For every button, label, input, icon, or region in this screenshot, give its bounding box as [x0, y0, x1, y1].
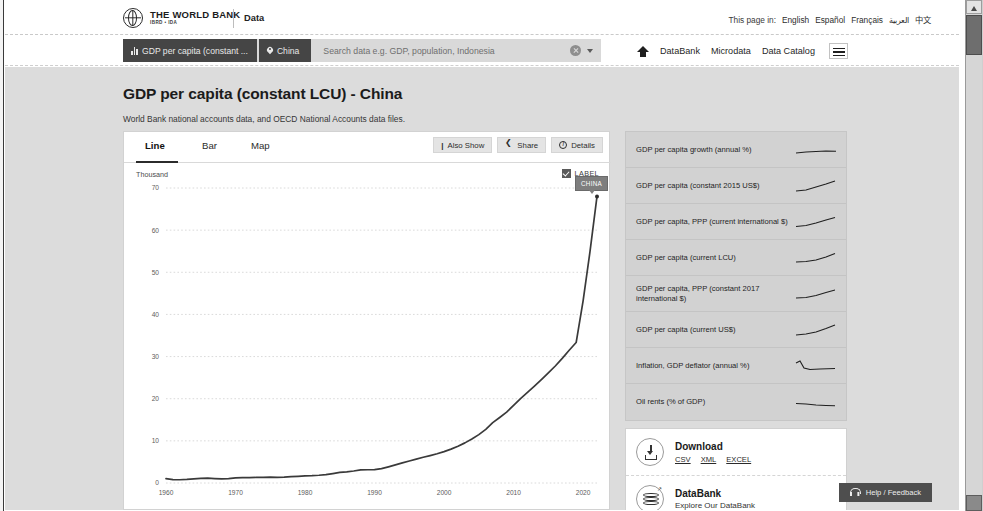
indicator-sparkline	[794, 286, 838, 302]
tab-bar[interactable]: Bar	[202, 140, 217, 151]
brand-name: THE WORLD BANK	[150, 10, 240, 20]
hamburger-menu-icon[interactable]	[829, 43, 848, 59]
language-link-chinese[interactable]: 中文	[915, 15, 931, 25]
share-button[interactable]: Share	[497, 137, 546, 153]
info-icon	[559, 141, 567, 149]
indicator-label: GDP per capita growth (annual %)	[636, 145, 794, 155]
search-input[interactable]: Search data e.g. GDP, population, Indone…	[311, 46, 570, 56]
indicator-label: Oil rents (% of GDP)	[636, 397, 794, 407]
indicator-list-item[interactable]: GDP per capita, PPP (constant 2017 inter…	[626, 276, 846, 312]
series-tooltip: CHINA	[575, 176, 608, 191]
svg-text:50: 50	[152, 269, 160, 276]
download-title: Download	[675, 441, 751, 452]
svg-text:10: 10	[152, 437, 160, 444]
tab-map[interactable]: Map	[251, 140, 270, 151]
search-bar-row: GDP per capita (constant ... China Searc…	[5, 36, 959, 66]
search-chip-indicator[interactable]: GDP per capita (constant ...	[123, 39, 257, 62]
page-content: GDP per capita (constant LCU) - China Wo…	[5, 67, 959, 510]
home-icon[interactable]	[637, 46, 649, 57]
also-show-label: Also Show	[448, 141, 485, 150]
download-link-excel[interactable]: EXCEL	[726, 455, 751, 464]
help-feedback-label: Help / Feedback	[866, 488, 921, 497]
line-chart[interactable]: 010203040506070 196019701980199020002010…	[132, 180, 603, 505]
browser-viewport: THE WORLD BANK IBRD • IDA Data This page…	[0, 0, 983, 511]
indicator-list-item[interactable]: GDP per capita (constant 2015 US$)	[626, 168, 846, 204]
svg-text:2020: 2020	[576, 489, 591, 496]
scrollbar-up-arrow[interactable]	[966, 0, 982, 14]
indicator-sparkline	[794, 250, 838, 266]
language-link-english[interactable]: English	[782, 15, 809, 25]
also-show-icon: |	[441, 141, 443, 150]
indicator-sparkline	[794, 214, 838, 230]
databank-subtitle: Explore Our DataBank	[675, 501, 755, 510]
indicator-list-item[interactable]: GDP per capita growth (annual %)	[626, 132, 846, 168]
share-icon	[505, 141, 513, 149]
indicator-label: GDP per capita (constant 2015 US$)	[636, 181, 794, 191]
download-card[interactable]: Download CSV XML EXCEL	[626, 429, 846, 475]
indicator-sparkline	[794, 322, 838, 338]
indicator-sparkline	[794, 178, 838, 194]
brand-divider	[233, 9, 234, 28]
indicator-list-item[interactable]: GDP per capita, PPP (current internation…	[626, 204, 846, 240]
indicator-label: Inflation, GDP deflator (annual %)	[636, 361, 794, 371]
search-box[interactable]: GDP per capita (constant ... China Searc…	[123, 39, 601, 62]
download-link-csv[interactable]: CSV	[675, 455, 691, 464]
indicator-label: GDP per capita (current US$)	[636, 325, 794, 335]
download-link-xml[interactable]: XML	[701, 455, 717, 464]
series-line-china[interactable]	[166, 196, 597, 479]
svg-text:0: 0	[155, 479, 159, 486]
location-pin-icon	[267, 47, 273, 55]
also-show-button[interactable]: | Also Show	[433, 137, 492, 153]
series-endpoint-marker[interactable]	[595, 194, 599, 198]
svg-text:40: 40	[152, 311, 160, 318]
language-link-francais[interactable]: Français	[851, 15, 883, 25]
indicator-list-item[interactable]: GDP per capita (current US$)	[626, 312, 846, 348]
chart-card: Line Bar Map | Also Show Share	[123, 131, 610, 510]
chart-y-axis-labels: 010203040506070	[152, 184, 160, 486]
page-title: GDP per capita (constant LCU) - China	[123, 85, 402, 103]
world-bank-logo[interactable]: THE WORLD BANK IBRD • IDA	[123, 8, 240, 28]
vertical-scrollbar[interactable]	[966, 0, 982, 511]
language-link-arabic[interactable]: العربية	[889, 15, 909, 25]
search-chip-indicator-label: GDP per capita (constant ...	[142, 46, 248, 56]
download-icon	[636, 438, 664, 466]
chart-toolbar: | Also Show Share Details	[433, 137, 603, 153]
chevron-down-icon[interactable]	[587, 49, 593, 53]
details-button[interactable]: Details	[551, 137, 603, 153]
scrollbar-thumb[interactable]	[966, 15, 982, 55]
svg-text:1980: 1980	[298, 489, 313, 496]
svg-text:2000: 2000	[437, 489, 452, 496]
search-chip-country[interactable]: China	[259, 39, 311, 62]
database-icon: ↗	[636, 485, 664, 510]
indicator-list-item[interactable]: Oil rents (% of GDP)	[626, 384, 846, 420]
brand-section-label: Data	[244, 13, 264, 23]
help-feedback-button[interactable]: Help / Feedback	[839, 483, 932, 502]
globe-icon	[123, 8, 143, 28]
page-source-note: World Bank national accounts data, and O…	[123, 114, 405, 124]
databank-card[interactable]: ↗ DataBank Explore Our DataBank	[626, 475, 846, 510]
nav-item-databank[interactable]: DataBank	[660, 46, 700, 56]
indicator-label: GDP per capita (current LCU)	[636, 253, 794, 263]
site-header: THE WORLD BANK IBRD • IDA Data This page…	[5, 3, 959, 35]
language-switcher: This page in:EnglishEspañolFrançaisالعرب…	[728, 13, 931, 25]
databank-title: DataBank	[675, 488, 755, 499]
svg-text:20: 20	[152, 395, 160, 402]
nav-item-microdata[interactable]: Microdata	[711, 46, 751, 56]
indicator-list-item[interactable]: Inflation, GDP deflator (annual %)	[626, 348, 846, 384]
search-chip-country-label: China	[277, 46, 299, 56]
indicator-list: GDP per capita growth (annual %)GDP per …	[625, 131, 847, 421]
scrollbar-down-arrow[interactable]	[966, 495, 982, 511]
chart-gridlines	[166, 188, 597, 483]
nav-item-data-catalog[interactable]: Data Catalog	[762, 46, 815, 56]
tab-line[interactable]: Line	[145, 140, 165, 151]
clear-icon[interactable]	[570, 45, 581, 56]
svg-text:30: 30	[152, 353, 160, 360]
label-checkbox[interactable]	[562, 169, 571, 178]
indicator-list-item[interactable]: GDP per capita (current LCU)	[626, 240, 846, 276]
brand-subname: IBRD • IDA	[150, 21, 240, 26]
language-link-espanol[interactable]: Español	[815, 15, 845, 25]
bar-chart-icon	[131, 47, 138, 55]
page-canvas: THE WORLD BANK IBRD • IDA Data This page…	[5, 3, 959, 510]
details-label: Details	[571, 141, 595, 150]
indicator-label: GDP per capita, PPP (constant 2017 inter…	[636, 284, 794, 303]
